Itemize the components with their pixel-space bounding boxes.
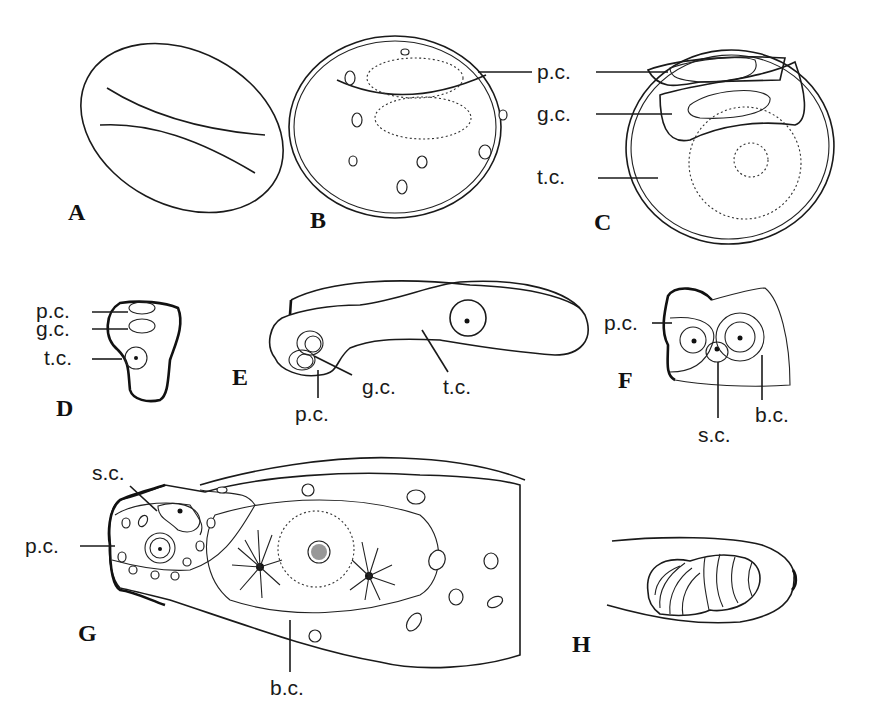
annotation-d-tc: t.c. bbox=[44, 347, 72, 368]
annotation-g-bc: b.c. bbox=[270, 677, 304, 698]
panel-label-b: B bbox=[310, 208, 326, 232]
annotation-e-tc: t.c. bbox=[443, 376, 471, 397]
annotation-f-sc: s.c. bbox=[698, 424, 731, 445]
annotation-g-sc: s.c. bbox=[92, 462, 125, 483]
panel-label-c: C bbox=[594, 210, 611, 234]
panel-d-young-pollen bbox=[92, 302, 180, 401]
panel-label-d: D bbox=[56, 396, 73, 420]
panel-c-pollen-grain bbox=[596, 41, 842, 252]
panel-e-germinating-pollen bbox=[270, 281, 588, 398]
annotation-d-gc: g.c. bbox=[36, 318, 70, 339]
annotation-e-gc: g.c. bbox=[362, 376, 396, 397]
pollen-development-figure: A B C D E F G H p.c. g.c. t.c. p.c. g.c.… bbox=[0, 0, 885, 720]
panel-f-pollen-tip bbox=[652, 288, 790, 418]
aster-left bbox=[232, 530, 282, 598]
aster-right bbox=[350, 542, 395, 600]
annotation-f-pc: p.c. bbox=[604, 312, 638, 333]
panel-label-f: F bbox=[618, 368, 633, 392]
panel-label-e: E bbox=[232, 365, 248, 389]
panel-label-a: A bbox=[68, 200, 85, 224]
panel-label-g: G bbox=[78, 621, 97, 645]
annotation-c-tc: t.c. bbox=[537, 166, 565, 187]
annotation-b-pc: p.c. bbox=[537, 61, 571, 82]
annotation-c-gc: g.c. bbox=[537, 103, 571, 124]
panel-g-pollen-tube bbox=[80, 458, 525, 672]
panel-b-pollen-grain bbox=[289, 36, 532, 218]
figure-drawing bbox=[0, 0, 885, 720]
annotation-g-pc: p.c. bbox=[25, 535, 59, 556]
annotation-f-bc: b.c. bbox=[755, 404, 789, 425]
annotation-e-pc: p.c. bbox=[295, 403, 329, 424]
panel-h-pollen-tube-tip bbox=[607, 538, 796, 623]
panel-a-pollen-grain bbox=[51, 10, 312, 246]
panel-label-h: H bbox=[572, 632, 591, 656]
